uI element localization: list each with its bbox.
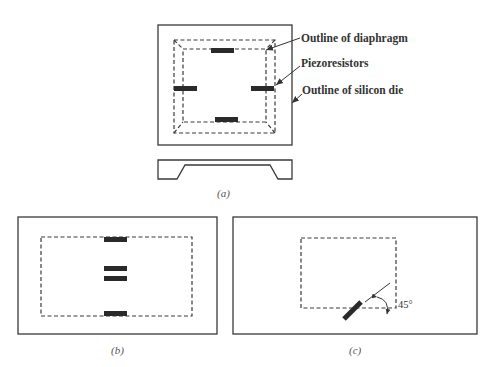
panel-b-resistor-center-2 — [104, 276, 127, 281]
piezoresistor-top — [211, 48, 234, 53]
caption-a: (a) — [217, 187, 230, 199]
caption-c: (c) — [349, 344, 361, 356]
panel-a-cross-section — [158, 160, 292, 179]
panel-b-resistor-bottom — [104, 311, 127, 316]
panel-a-top-view — [158, 25, 302, 145]
panel-c-die-outline — [233, 217, 477, 334]
diaphragm-inner-outline — [183, 49, 266, 122]
angle-label-45: 45° — [398, 299, 413, 310]
label-outline-of-diaphragm: Outline of diaphragm — [301, 32, 408, 44]
piezoresistor-bottom — [215, 117, 238, 122]
panel-b-resistor-top — [104, 237, 127, 242]
caption-b: (b) — [111, 344, 124, 356]
label-outline-of-silicon-die: Outline of silicon die — [302, 84, 403, 96]
panel-c-diaphragm-outline — [301, 238, 396, 308]
diagram-canvas — [0, 0, 495, 367]
panel-b — [18, 217, 217, 334]
piezoresistor-leader-arrow — [276, 66, 300, 85]
angle-arc-icon — [377, 297, 388, 314]
label-piezoresistors: Piezoresistors — [301, 57, 368, 69]
diaphragm-leader-arrow — [266, 38, 300, 50]
piezoresistor-right — [251, 86, 274, 91]
panel-c-45deg-reference-line — [365, 283, 390, 302]
die-leader-arrow — [292, 94, 302, 103]
panel-b-resistor-center-1 — [104, 266, 127, 271]
piezoresistor-left — [174, 86, 197, 91]
silicon-die-outline — [158, 25, 292, 145]
panel-c-resistor — [344, 302, 361, 319]
panel-c — [233, 217, 477, 334]
